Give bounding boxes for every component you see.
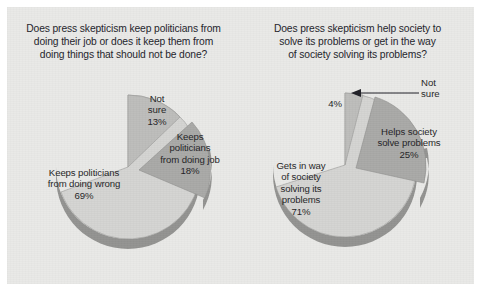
pie-chart-society: Does press skepticism help society to so… xyxy=(241,7,474,284)
label-gets-in-way: Gets in way of society solving its probl… xyxy=(263,160,339,217)
pie-chart-politicians: Does press skepticism keep politicians f… xyxy=(7,7,240,284)
label-not-sure-percent: 4% xyxy=(321,98,349,109)
label-keeps-from-doing-wrong: Keeps politicians from doing wrong 69% xyxy=(27,167,141,201)
label-not-sure: Not sure xyxy=(421,77,467,100)
figure-panel: Does press skepticism keep politicians f… xyxy=(7,7,474,284)
label-not-sure: Not sure 13% xyxy=(135,93,179,127)
label-helps-society: Helps society solve problems 25% xyxy=(363,126,455,160)
figure-page: Does press skepticism keep politicians f… xyxy=(0,0,481,291)
label-keeps-from-doing-job: Keeps politicians from doing job 18% xyxy=(148,131,232,177)
